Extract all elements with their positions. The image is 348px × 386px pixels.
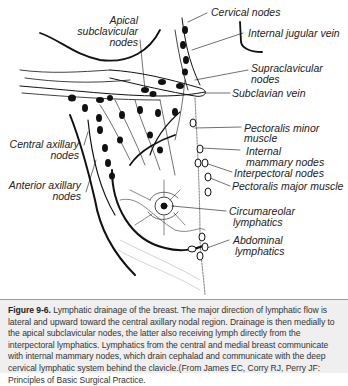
label-pectoralis-major-muscle: Pectoralis major muscle	[232, 181, 343, 192]
label-subclavian-vein: Subclavian vein	[232, 88, 306, 99]
label-anterior-axillary-line2: nodes	[0, 191, 81, 202]
label-cervical-nodes: Cervical nodes	[211, 7, 280, 18]
label-abdominal-line2: lymphatics	[235, 246, 285, 257]
lymphatic-drainage-illustration: Cervical nodes Internal jugular vein Api…	[0, 0, 348, 300]
caption-text: Lymphatic drainage of the breast. The ma…	[8, 305, 335, 385]
label-supraclavicular-line2: nodes	[251, 74, 280, 85]
figure-number: Figure 9-6.	[8, 305, 51, 315]
label-central-axillary-line2: nodes	[0, 150, 79, 161]
label-pectoralis-minor-line2: muscle	[244, 133, 277, 144]
label-internal-jugular-vein: Internal jugular vein	[248, 28, 340, 39]
label-apical-line3: nodes	[96, 37, 138, 48]
figure-caption: Figure 9-6. Lymphatic drainage of the br…	[0, 299, 348, 373]
label-interpectoral-nodes: Interpectoral nodes	[234, 168, 324, 179]
label-circumareolar-line2: lymphatics	[233, 217, 283, 228]
